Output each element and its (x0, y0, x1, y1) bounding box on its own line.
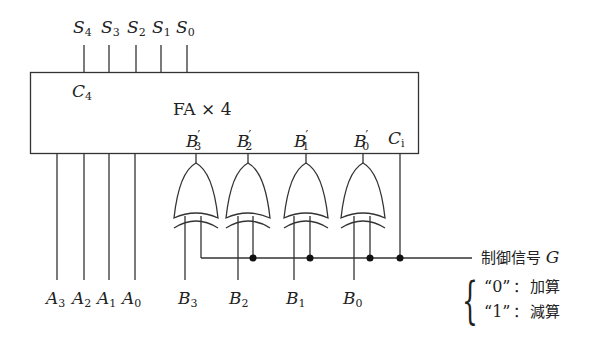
sum-label-s2: S2 (127, 19, 146, 38)
brace: { (462, 276, 478, 326)
junction-dot (250, 255, 257, 262)
junction-dot (397, 255, 404, 262)
xor-gate-0 (341, 153, 385, 280)
junction-dot (367, 255, 374, 262)
control-option-subtract: “1”：減算 (484, 304, 560, 320)
b-prime-label-2: B′2 (237, 130, 252, 152)
sum-label-s4: S4 (73, 19, 92, 38)
sum-label-s0: S0 (176, 19, 195, 38)
b-input-label-3: B3 (178, 290, 198, 309)
block-label: FA × 4 (173, 101, 231, 118)
xor-gate-1 (284, 153, 328, 280)
sum-label-s1: S1 (152, 19, 171, 38)
b-prime-label-1: B′1 (294, 130, 309, 152)
a-input-label-2: A2 (72, 290, 91, 309)
xor-gate-3 (174, 153, 218, 280)
b-prime-label-0: B′0 (354, 130, 369, 152)
b-input-label-0: B0 (343, 290, 363, 309)
control-signal-name: G (546, 247, 560, 267)
carry-out-label: C4 (72, 83, 92, 102)
b-input-label-2: B2 (229, 290, 249, 309)
a-input-label-1: A1 (97, 290, 116, 309)
a-input-label-3: A3 (46, 290, 65, 309)
control-option-add: “0”：加算 (484, 279, 560, 295)
carry-in-label: Ci (388, 130, 405, 149)
b-prime-label-3: B′3 (186, 130, 201, 152)
junction-dot (307, 255, 314, 262)
xor-gate-2 (226, 153, 270, 280)
sum-label-s3: S3 (101, 19, 120, 38)
a-input-label-0: A0 (122, 290, 141, 309)
control-signal-label: 制御信号 G (481, 249, 559, 266)
b-input-label-1: B1 (286, 290, 306, 309)
